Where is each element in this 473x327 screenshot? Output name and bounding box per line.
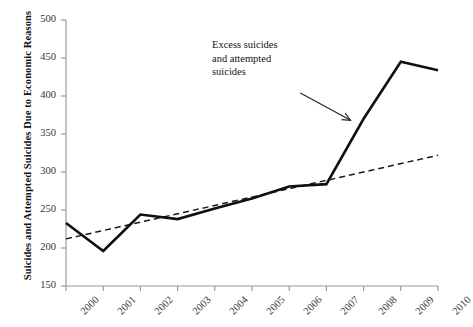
annotation-arrow-shaft [300, 93, 350, 120]
annotation-excess-suicides: Excess suicides and attempted suicides [212, 38, 322, 79]
annotation-arrow [300, 93, 350, 120]
annotation-line-3: suicides [212, 65, 322, 79]
x-axis-ticks [66, 286, 438, 291]
data-line-solid [66, 62, 438, 251]
trend-line-dashed [66, 155, 438, 239]
annotation-line-1: Excess suicides [212, 38, 322, 52]
annotation-line-2: and attempted [212, 52, 322, 66]
y-axis-ticks [61, 20, 66, 286]
